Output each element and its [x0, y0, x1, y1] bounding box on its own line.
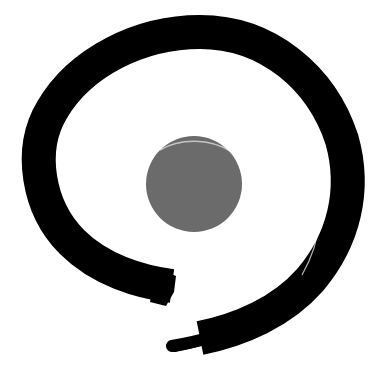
enso-dry-streak [290, 140, 311, 270]
enso-svg [0, 0, 382, 380]
enso-dry-streak [120, 69, 290, 110]
enso-artwork [0, 0, 382, 380]
